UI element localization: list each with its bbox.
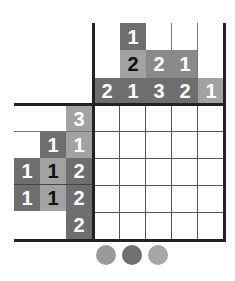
clue-divider [171,23,172,50]
row-clue: 1 [14,158,40,185]
grid-cell[interactable] [120,132,146,159]
grid-cell[interactable] [198,105,224,132]
grid-cell[interactable] [94,132,120,159]
grid-cell[interactable] [94,105,120,132]
puzzle-grid [94,105,224,240]
palette-color-1[interactable] [96,245,116,265]
palette-color-2[interactable] [122,245,142,265]
row-clue: 2 [66,211,92,239]
palette-color-3[interactable] [148,245,168,265]
grid-cell[interactable] [120,159,146,186]
row-clue: 1 [40,185,66,211]
column-clue: 1 [120,23,146,51]
row-clue: 2 [66,158,92,185]
grid-cell[interactable] [172,213,198,240]
grid-cell[interactable] [146,159,172,186]
grid-cell[interactable] [146,105,172,132]
column-clue: 1 [120,78,146,104]
column-clue: 2 [94,78,120,104]
grid-cell[interactable] [120,213,146,240]
grid-cell[interactable] [146,213,172,240]
column-clue: 3 [146,78,172,104]
column-clue: 1 [198,78,224,104]
grid-cell[interactable] [198,186,224,213]
row-clue: 2 [66,185,92,211]
grid-border-bottom [14,239,226,242]
grid-cell[interactable] [120,105,146,132]
clue-divider [197,23,198,78]
column-clue: 2 [120,50,146,78]
grid-cell[interactable] [94,213,120,240]
grid-border-top [14,103,226,106]
grid-cell[interactable] [198,132,224,159]
grid-cell[interactable] [198,159,224,186]
nonogram-board: 2 1 2 1 2 3 1 2 1 3 1 1 1 1 2 1 1 2 2 [0,0,235,281]
grid-cell[interactable] [146,186,172,213]
grid-cell[interactable] [172,105,198,132]
column-clue: 2 [172,78,198,104]
grid-cell[interactable] [172,186,198,213]
grid-border-left [92,23,95,242]
row-clue: 1 [40,132,66,158]
grid-cell[interactable] [198,213,224,240]
grid-border-right [223,23,226,242]
clue-divider [14,184,93,185]
row-clue: 3 [66,106,92,132]
row-clue: 1 [14,185,40,211]
row-clue: 1 [40,158,66,185]
grid-cell[interactable] [94,186,120,213]
column-clue: 1 [172,50,198,78]
grid-cell[interactable] [172,159,198,186]
grid-cell[interactable] [172,132,198,159]
grid-cell[interactable] [120,186,146,213]
row-clue: 1 [66,132,92,158]
column-clue: 2 [146,50,172,78]
grid-cell[interactable] [94,159,120,186]
clue-divider [14,131,93,132]
grid-cell[interactable] [146,132,172,159]
